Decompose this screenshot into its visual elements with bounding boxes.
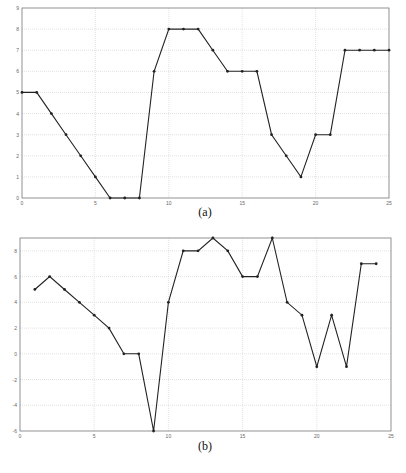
data-point [345, 365, 348, 368]
x-tick-label: 15 [239, 200, 245, 206]
data-line [35, 238, 376, 431]
x-tick-label: 25 [388, 433, 394, 439]
data-point [270, 133, 273, 136]
y-tick-label: 3 [16, 132, 19, 138]
x-tick-label: 5 [93, 433, 96, 439]
x-tick-label: 20 [314, 433, 320, 439]
data-point [226, 249, 229, 252]
y-tick-label: 0 [14, 351, 17, 357]
data-point [153, 70, 156, 73]
data-point [137, 352, 140, 355]
y-tick-label: 4 [14, 299, 17, 305]
data-point [388, 49, 391, 52]
data-point [241, 70, 244, 73]
x-tick-label: 10 [166, 200, 172, 206]
data-point [167, 301, 170, 304]
chart-b: 0510152025-6-4-202468 [13, 237, 394, 439]
data-point [138, 197, 141, 200]
data-point [35, 91, 38, 94]
y-tick-label: 8 [16, 26, 19, 32]
data-point [152, 430, 155, 433]
data-point [358, 49, 361, 52]
data-point [108, 327, 111, 330]
caption-b: (b) [185, 439, 225, 454]
y-tick-label: 5 [16, 89, 19, 95]
y-tick-label: -6 [13, 428, 18, 434]
x-tick-label: 0 [19, 433, 22, 439]
data-point [329, 133, 332, 136]
y-tick-label: 7 [16, 47, 19, 53]
y-tick-label: 6 [14, 274, 17, 280]
charts-canvas: 05101520250123456789 0510152025-6-4-2024… [0, 0, 406, 473]
data-point [255, 70, 258, 73]
x-tick-label: 0 [21, 200, 24, 206]
data-point [301, 314, 304, 317]
data-point [122, 352, 125, 355]
plot-frame [22, 8, 389, 198]
data-point [93, 314, 96, 317]
data-point [314, 133, 317, 136]
data-point [300, 175, 303, 178]
data-point [360, 262, 363, 265]
y-tick-label: 6 [16, 68, 19, 74]
data-point [79, 154, 82, 157]
y-tick-label: 2 [16, 153, 19, 159]
data-point [373, 49, 376, 52]
data-point [285, 154, 288, 157]
x-tick-label: 15 [240, 433, 246, 439]
chart-a: 05101520250123456789 [16, 5, 392, 206]
data-point [271, 237, 274, 240]
y-tick-label: 0 [16, 195, 19, 201]
y-tick-label: 8 [14, 248, 17, 254]
data-point [212, 237, 215, 240]
data-point [167, 28, 170, 31]
data-point [241, 275, 244, 278]
data-line [22, 29, 389, 198]
data-point [123, 197, 126, 200]
y-tick-label: 4 [16, 111, 19, 117]
y-tick-label: 9 [16, 5, 19, 11]
data-point [33, 288, 36, 291]
data-point [375, 262, 378, 265]
x-tick-label: 25 [386, 200, 392, 206]
data-point [21, 91, 24, 94]
data-point [182, 249, 185, 252]
data-point [65, 133, 68, 136]
data-point [50, 112, 53, 115]
y-tick-label: 1 [16, 174, 19, 180]
data-point [94, 175, 97, 178]
y-tick-label: -4 [13, 402, 18, 408]
data-point [256, 275, 259, 278]
data-point [286, 301, 289, 304]
caption-a: (a) [185, 205, 225, 220]
data-point [109, 197, 112, 200]
x-tick-label: 10 [166, 433, 172, 439]
y-tick-label: 2 [14, 325, 17, 331]
y-tick-label: -2 [13, 377, 18, 383]
data-point [315, 365, 318, 368]
data-point [197, 249, 200, 252]
data-point [78, 301, 81, 304]
data-point [182, 28, 185, 31]
data-point [63, 288, 66, 291]
data-point [344, 49, 347, 52]
data-point [226, 70, 229, 73]
data-point [330, 314, 333, 317]
x-tick-label: 20 [313, 200, 319, 206]
data-point [211, 49, 214, 52]
data-point [48, 275, 51, 278]
x-tick-label: 5 [94, 200, 97, 206]
plot-frame [20, 238, 391, 431]
data-point [197, 28, 200, 31]
